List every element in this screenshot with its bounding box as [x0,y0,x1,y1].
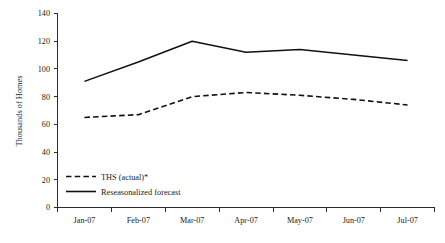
y-tick-label-60: 60 [42,120,50,129]
y-tick-label-120: 120 [38,37,50,46]
y-tick-label-100: 100 [38,65,50,74]
x-tick-label-apr-07: Apr-07 [234,216,257,225]
y-tick-label-40: 40 [42,148,50,157]
y-tick-label-80: 80 [42,93,50,102]
y-tick-label-0: 0 [46,203,50,212]
chart-figure: Thousands of Homes 140 120 100 80 60 40 … [0,0,445,243]
y-axis-title: Thousands of Homes [15,75,24,146]
x-tick-label-mar-07: Mar-07 [180,216,204,225]
chart-background [0,0,445,243]
x-tick-label-may-07: May-07 [287,216,313,225]
y-tick-label-20: 20 [42,176,50,185]
line-chart: Thousands of Homes 140 120 100 80 60 40 … [0,0,445,243]
legend-label-ths-actual: THS (actual)* [101,173,148,182]
x-tick-label-feb-07: Feb-07 [127,216,150,225]
y-tick-label-140: 140 [38,9,50,18]
x-tick-label-jul-07: Jul-07 [397,216,417,225]
legend-label-reseasonalized-forecast: Reseasonalized forecast [101,188,181,197]
x-tick-label-jan-07: Jan-07 [74,216,96,225]
x-tick-label-jun-07: Jun-07 [343,216,365,225]
